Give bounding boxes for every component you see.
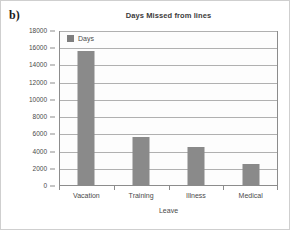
y-axis-tick-label: 2000 [33,166,47,173]
y-axis-tick-label: 18000 [29,28,47,35]
x-axis-tick [169,186,170,190]
y-axis-tick-label: 12000 [29,79,47,86]
x-axis-title: Leave [59,207,278,214]
gridline [60,83,277,84]
gridline [60,134,277,135]
y-axis-tick-label: 16000 [29,45,47,52]
y-axis-tick [50,186,55,187]
x-axis-tick [59,186,60,190]
y-axis-tick [50,99,55,100]
x-axis: VacationTrainingIllnessMedical [59,186,278,208]
y-axis-tick [50,65,55,66]
gridline [60,152,277,153]
chart-title: Days Missed from lines [59,12,278,20]
legend-swatch-days-icon [67,35,74,42]
y-axis-tick-label: 4000 [33,148,47,155]
y-axis-tick [50,134,55,135]
y-axis-tick [50,117,55,118]
chart-figure: b) Days Missed from lines 02000400060008… [0,0,290,230]
y-axis-tick [50,48,55,49]
gridline [60,169,277,170]
x-axis-tick-label: Medical [239,192,263,199]
chart-legend: Days [67,35,94,42]
x-axis-tick-label: Training [129,192,154,199]
gridline [60,31,277,32]
x-axis-tick [114,186,115,190]
y-axis-tick-label: 14000 [29,62,47,69]
x-axis-tick-label: Illness [186,192,206,199]
legend-label-days: Days [78,35,94,42]
y-axis-tick [50,31,55,32]
plot-area [59,31,278,186]
y-axis-tick-label: 6000 [33,131,47,138]
y-axis: 0200040006000800010000120001400016000180… [1,31,55,186]
y-axis-tick [50,168,55,169]
gridline [60,65,277,66]
x-axis-tick [277,186,278,190]
gridline [60,100,277,101]
y-axis-tick [50,151,55,152]
gridline [60,48,277,49]
y-axis-tick [50,82,55,83]
gridline [60,117,277,118]
x-axis-tick-label: Vacation [73,192,100,199]
y-axis-tick-label: 10000 [29,97,47,104]
y-axis-tick-label: 8000 [33,114,47,121]
y-axis-tick-label: 0 [43,183,47,190]
panel-label: b) [9,9,20,21]
x-axis-tick [223,186,224,190]
